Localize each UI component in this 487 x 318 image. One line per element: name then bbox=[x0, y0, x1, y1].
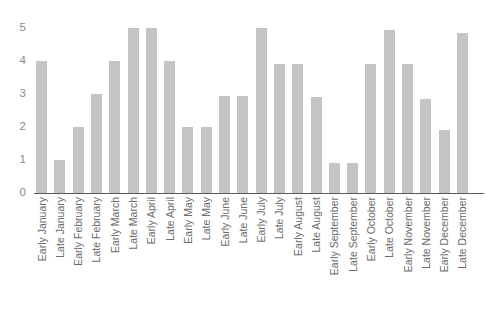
x-axis-tick-label: Early July bbox=[256, 197, 267, 312]
x-axis-tick-label: Late August bbox=[311, 197, 322, 312]
bar[interactable] bbox=[274, 64, 285, 193]
x-axis-tick-label: Early December bbox=[439, 197, 450, 312]
x-axis-tick-label: Late November bbox=[420, 197, 431, 312]
x-axis-tick-label: Early June bbox=[219, 197, 230, 312]
x-axis-tick-label: Late July bbox=[274, 197, 285, 312]
bar[interactable] bbox=[365, 64, 376, 193]
bar[interactable] bbox=[201, 127, 212, 193]
bar[interactable] bbox=[54, 160, 65, 193]
y-axis: 012345 bbox=[0, 0, 34, 318]
x-axis-tick-label: Late May bbox=[201, 197, 212, 312]
bar[interactable] bbox=[182, 127, 193, 193]
bar[interactable] bbox=[164, 61, 175, 193]
y-axis-tick-label: 0 bbox=[4, 187, 26, 199]
x-axis-tick-label: Early August bbox=[292, 197, 303, 312]
x-axis-tick-label: Early May bbox=[182, 197, 193, 312]
bar[interactable] bbox=[219, 96, 230, 193]
x-axis-tick-label: Late April bbox=[164, 197, 175, 312]
bar[interactable] bbox=[256, 28, 267, 193]
bar[interactable] bbox=[402, 64, 413, 193]
bar[interactable] bbox=[329, 163, 340, 193]
bar[interactable] bbox=[439, 130, 450, 193]
x-axis-tick-label: Early March bbox=[109, 197, 120, 312]
bar[interactable] bbox=[91, 94, 102, 193]
x-axis-tick-label: Early September bbox=[329, 197, 340, 312]
x-axis-tick-label: Early April bbox=[146, 197, 157, 312]
x-axis-tick-label: Late January bbox=[54, 197, 65, 312]
x-axis-tick-label: Early February bbox=[73, 197, 84, 312]
bar[interactable] bbox=[347, 163, 358, 193]
bar[interactable] bbox=[292, 64, 303, 193]
bar[interactable] bbox=[311, 97, 322, 193]
y-axis-tick-label: 2 bbox=[4, 121, 26, 133]
y-axis-tick-label: 1 bbox=[4, 154, 26, 166]
bar[interactable] bbox=[109, 61, 120, 193]
y-axis-tick-label: 4 bbox=[4, 55, 26, 67]
bar[interactable] bbox=[457, 33, 468, 193]
x-axis-tick-label: Early November bbox=[402, 197, 413, 312]
x-axis-tick-label: Late March bbox=[128, 197, 139, 312]
bar[interactable] bbox=[384, 30, 395, 193]
x-axis-tick-label: Late December bbox=[457, 197, 468, 312]
x-axis-line bbox=[34, 193, 484, 194]
x-axis-tick-label: Late February bbox=[91, 197, 102, 312]
x-axis-tick-label: Early October bbox=[365, 197, 376, 312]
x-axis-tick-label: Late September bbox=[347, 197, 358, 312]
x-axis-tick-label: Late October bbox=[384, 197, 395, 312]
bar-chart: 012345 Early JanuaryLate JanuaryEarly Fe… bbox=[0, 0, 487, 318]
x-axis: Early JanuaryLate JanuaryEarly FebruaryL… bbox=[36, 197, 482, 315]
bar[interactable] bbox=[128, 28, 139, 193]
y-axis-tick-label: 5 bbox=[4, 22, 26, 34]
bar[interactable] bbox=[73, 127, 84, 193]
bar[interactable] bbox=[420, 99, 431, 193]
x-axis-tick-label: Early January bbox=[36, 197, 47, 312]
bar[interactable] bbox=[36, 61, 47, 193]
y-axis-tick-label: 3 bbox=[4, 88, 26, 100]
bar[interactable] bbox=[146, 28, 157, 193]
x-axis-tick-label: Late June bbox=[237, 197, 248, 312]
bar[interactable] bbox=[237, 96, 248, 193]
